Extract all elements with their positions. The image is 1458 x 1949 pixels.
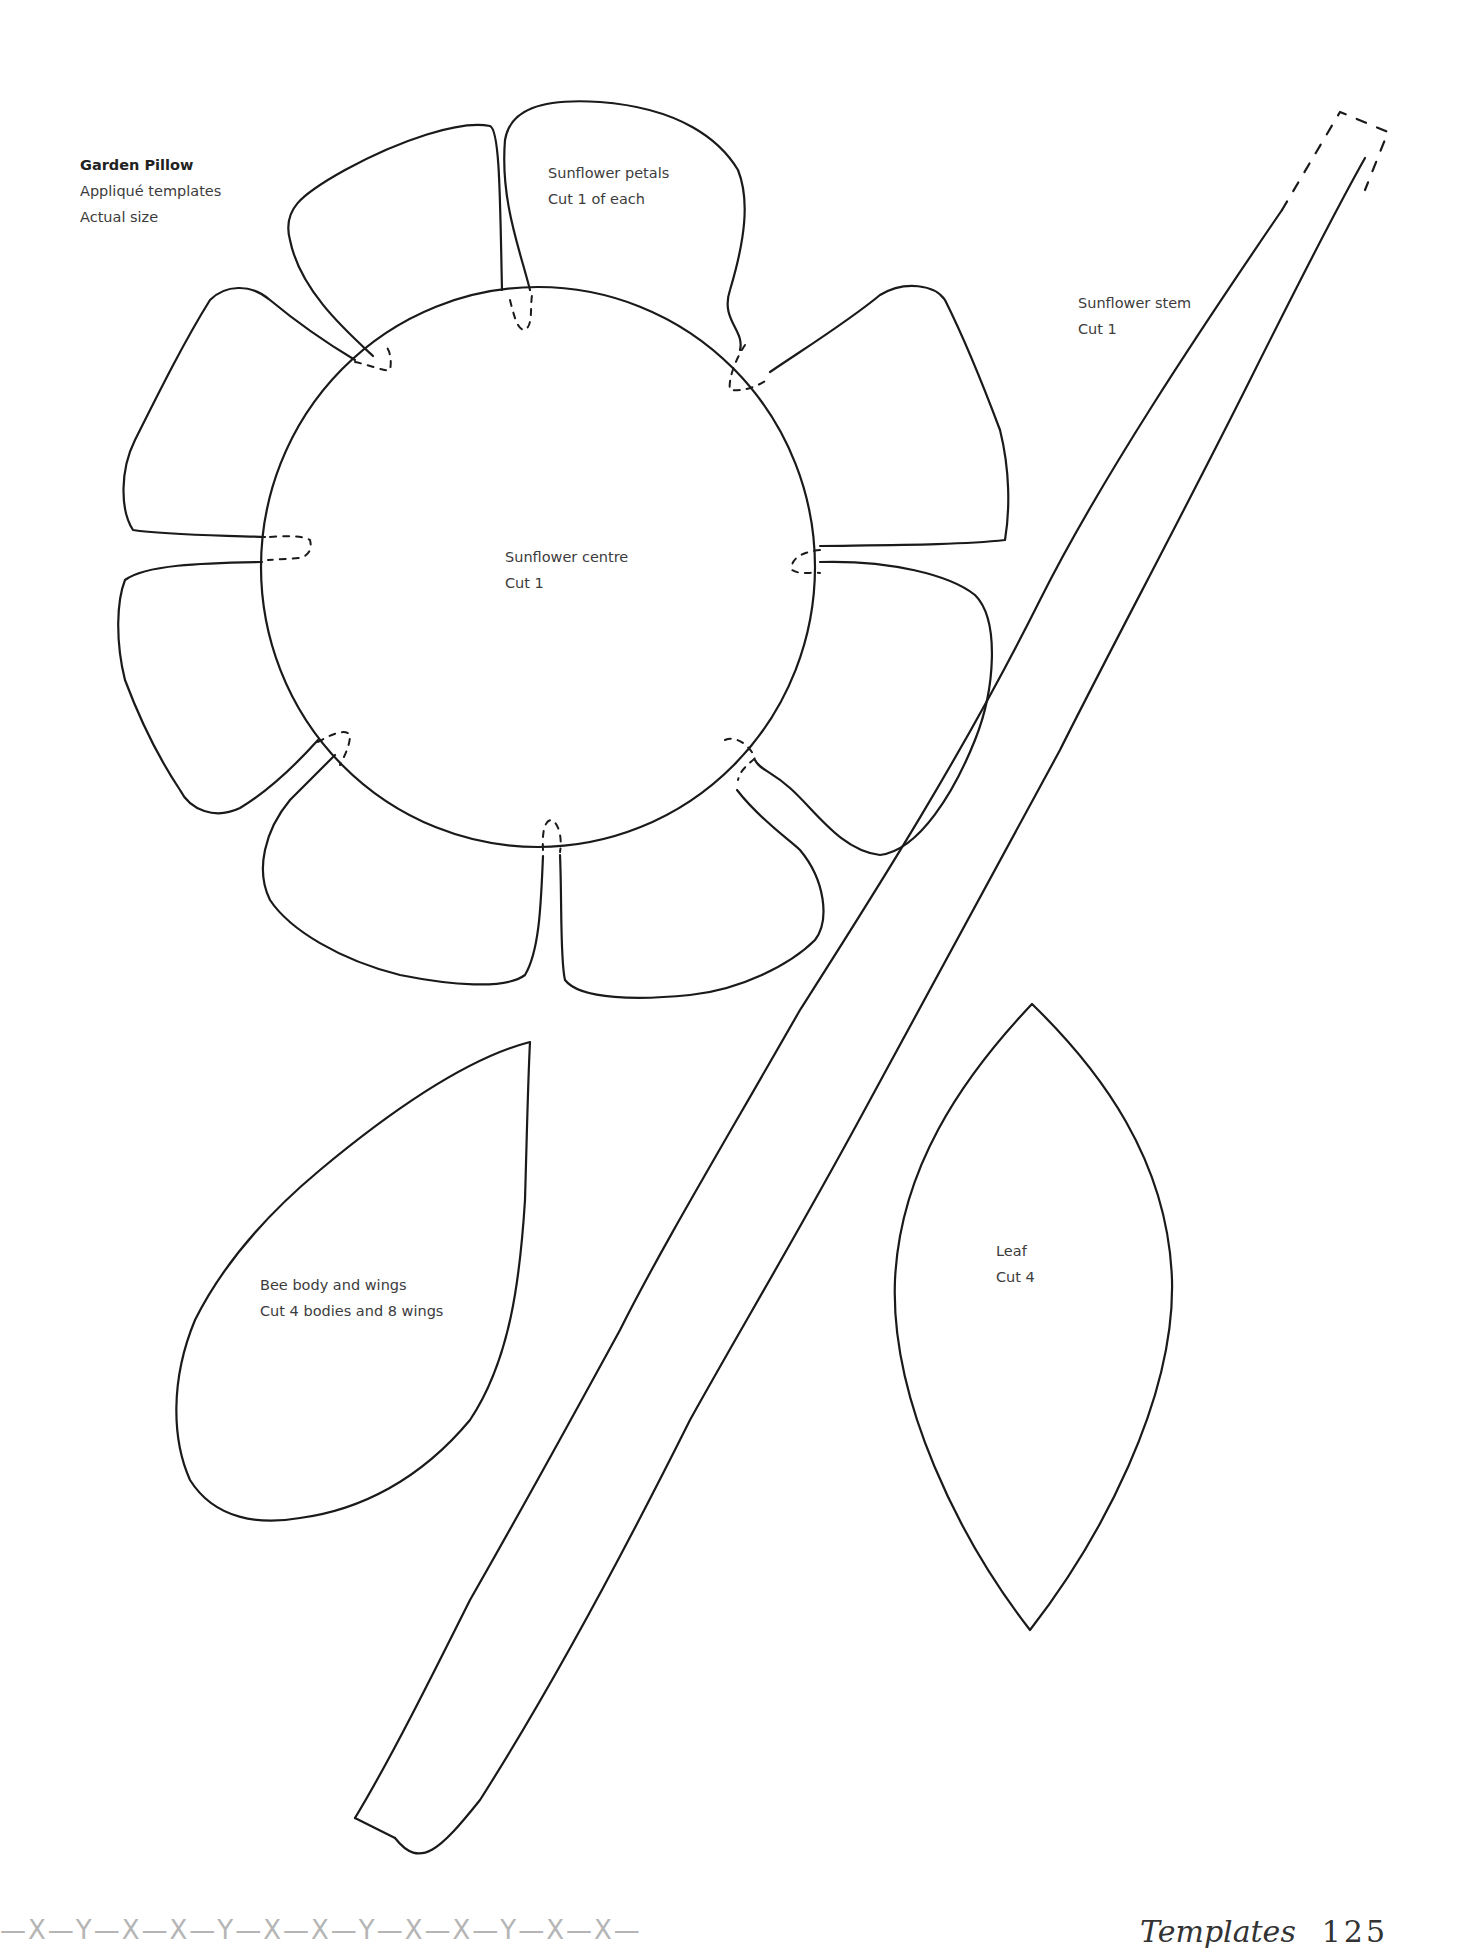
overlap-mark-bottom-left <box>318 732 350 765</box>
stem-instruction: Cut 1 <box>1078 316 1191 342</box>
leaf-instruction: Cut 4 <box>996 1264 1035 1290</box>
title-block: Garden Pillow Appliqué templates Actual … <box>80 152 221 230</box>
leaf-label: Leaf Cut 4 <box>996 1238 1035 1290</box>
centre-instruction: Cut 1 <box>505 570 628 596</box>
overlap-mark-top-left <box>355 345 391 370</box>
overlap-mark-top-right <box>730 345 770 390</box>
page-title: Garden Pillow <box>80 152 221 178</box>
centre-name: Sunflower centre <box>505 544 628 570</box>
petal-right <box>755 562 992 855</box>
petals-name: Sunflower petals <box>548 160 669 186</box>
page-subtitle: Appliqué templates <box>80 178 221 204</box>
petals-label: Sunflower petals Cut 1 of each <box>548 160 669 212</box>
stem-bottom-end <box>355 1818 395 1838</box>
scale-note: Actual size <box>80 204 221 230</box>
leaf-template-shape <box>895 1004 1172 1630</box>
page-folio: Templates125 <box>1140 1914 1388 1949</box>
petal-top-left <box>288 125 502 356</box>
page-number: 125 <box>1322 1914 1388 1949</box>
stem-name: Sunflower stem <box>1078 290 1191 316</box>
footer-stitch-pattern: —X—Y—X—X—Y—X—X—Y—X—X—Y—X—X— <box>0 1915 642 1945</box>
leaf-name: Leaf <box>996 1238 1035 1264</box>
petal-left <box>123 288 355 537</box>
petal-top <box>504 101 744 350</box>
stem-shape-right-edge <box>395 158 1365 1853</box>
stem-shape-left-edge <box>355 210 1282 1818</box>
centre-label: Sunflower centre Cut 1 <box>505 544 628 596</box>
petals-instruction: Cut 1 of each <box>548 186 669 212</box>
folio-section: Templates <box>1140 1914 1296 1949</box>
stem-dashed-top <box>1282 112 1388 210</box>
bee-label: Bee body and wings Cut 4 bodies and 8 wi… <box>260 1272 443 1324</box>
petal-bottom-right <box>560 790 823 998</box>
overlap-mark-left <box>268 536 311 560</box>
petal-bottom <box>263 755 543 984</box>
bee-name: Bee body and wings <box>260 1272 443 1298</box>
petal-top-right <box>770 286 1008 546</box>
overlap-mark-top <box>510 295 532 330</box>
stem-label: Sunflower stem Cut 1 <box>1078 290 1191 342</box>
bee-instruction: Cut 4 bodies and 8 wings <box>260 1298 443 1324</box>
